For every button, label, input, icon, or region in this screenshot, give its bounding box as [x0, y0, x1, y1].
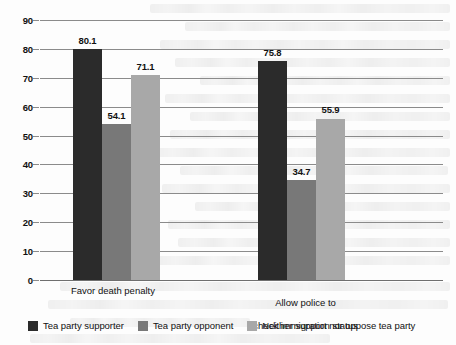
bar-wrap-g1-opponent: 34.7 [287, 20, 316, 280]
bar-group-allow-police: 75.8 34.7 55.9 [258, 20, 345, 280]
bar-g1-tea-party-opponent[interactable] [287, 180, 316, 280]
gridline-0-baseline: 0 [40, 280, 443, 281]
y-tick-10: 10 [23, 246, 33, 257]
legend-item-neither[interactable]: Neither support nor oppose tea party [247, 320, 415, 331]
legend-swatch-icon-neither [247, 321, 257, 331]
bar-value-g0-opponent: 54.1 [107, 110, 125, 121]
bar-wrap-g0-neither: 71.1 [131, 20, 160, 280]
bar-wrap-g1-neither: 55.9 [316, 20, 345, 280]
legend-label-neither: Neither support nor oppose tea party [262, 320, 415, 331]
tick-dash-70 [33, 78, 39, 79]
y-tick-80: 80 [23, 43, 33, 54]
legend-label-supporter: Tea party supporter [43, 320, 124, 331]
tick-dash-40 [33, 164, 39, 165]
legend-swatch-icon-opponent [138, 321, 148, 331]
tick-dash-90 [33, 20, 39, 21]
bar-value-g1-neither: 55.9 [321, 104, 339, 115]
legend-item-tea-party-supporter[interactable]: Tea party supporter [28, 320, 124, 331]
tick-dash-60 [33, 107, 39, 108]
y-tick-30: 30 [23, 188, 33, 199]
bar-value-g1-supporter: 75.8 [263, 47, 281, 58]
bar-wrap-g1-supporter: 75.8 [258, 20, 287, 280]
chart-legend: Tea party supporter Tea party opponent N… [28, 320, 415, 331]
x-category-label-0: Favor death penalty [33, 285, 193, 297]
tick-dash-80 [33, 49, 39, 50]
y-tick-50: 50 [23, 130, 33, 141]
y-tick-60: 60 [23, 101, 33, 112]
bar-value-g0-neither: 71.1 [136, 61, 154, 72]
bar-wrap-g0-opponent: 54.1 [102, 20, 131, 280]
y-tick-70: 70 [23, 72, 33, 83]
legend-item-tea-party-opponent[interactable]: Tea party opponent [138, 320, 233, 331]
tick-dash-20 [33, 222, 39, 223]
y-tick-0: 0 [28, 275, 33, 286]
bar-g0-tea-party-supporter[interactable] [73, 49, 102, 280]
tick-dash-50 [33, 136, 39, 137]
tick-dash-30 [33, 193, 39, 194]
x-category-label-1-line1: Allow police to [275, 297, 336, 308]
y-tick-20: 20 [23, 217, 33, 228]
tick-dash-0 [33, 280, 39, 281]
bar-wrap-g0-supporter: 80.1 [73, 20, 102, 280]
legend-label-opponent: Tea party opponent [153, 320, 233, 331]
bar-chart: 90 80 70 60 50 40 30 20 [0, 0, 456, 345]
legend-swatch-icon-supporter [28, 321, 38, 331]
y-tick-90: 90 [23, 15, 33, 26]
bar-value-g1-opponent: 34.7 [292, 166, 310, 177]
bar-g1-tea-party-supporter[interactable] [258, 61, 287, 280]
bar-g0-neither-support-nor-oppose[interactable] [131, 75, 160, 280]
y-tick-40: 40 [23, 159, 33, 170]
plot-area: 90 80 70 60 50 40 30 20 [40, 20, 443, 280]
bar-g1-neither-support-nor-oppose[interactable] [316, 119, 345, 281]
bar-group-favor-death-penalty: 80.1 54.1 71.1 [73, 20, 160, 280]
bar-value-g0-supporter: 80.1 [78, 35, 96, 46]
tick-dash-10 [33, 251, 39, 252]
bar-g0-tea-party-opponent[interactable] [102, 124, 131, 280]
